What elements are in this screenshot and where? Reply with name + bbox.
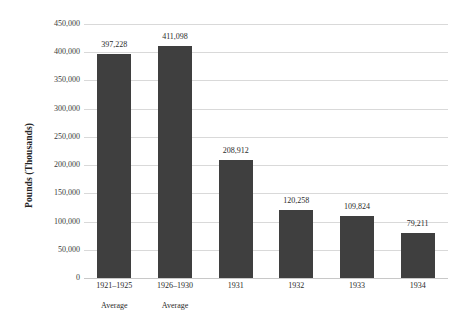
bar[interactable] <box>219 160 253 278</box>
gridline <box>84 109 448 110</box>
bar[interactable] <box>279 210 313 278</box>
bar-group[interactable]: 411,098 <box>158 24 192 278</box>
bar[interactable] <box>340 216 374 278</box>
gridline <box>84 193 448 194</box>
bar[interactable] <box>401 233 435 278</box>
gridline <box>84 250 448 251</box>
gridline <box>84 165 448 166</box>
y-axis-tick-label: 200,000 <box>18 161 80 169</box>
gridline <box>84 24 448 25</box>
bar-value-label: 208,912 <box>197 147 275 155</box>
y-axis-tick-label: 100,000 <box>18 218 80 226</box>
x-axis-tick-label-line2: Average <box>135 302 215 310</box>
axis-baseline <box>84 278 448 279</box>
y-axis-tick-label: 250,000 <box>18 133 80 141</box>
bar-value-label: 79,211 <box>379 220 457 228</box>
bar-group[interactable]: 120,258 <box>279 24 313 278</box>
y-axis-tick-label: 400,000 <box>18 48 80 56</box>
gridline <box>84 52 448 53</box>
y-axis-tick-label: 0 <box>18 274 80 282</box>
bar[interactable] <box>97 54 131 278</box>
y-axis-tick-label: 150,000 <box>18 189 80 197</box>
bar-value-label: 109,824 <box>318 203 396 211</box>
bar-group[interactable]: 109,824 <box>340 24 374 278</box>
bar[interactable] <box>158 46 192 278</box>
bar-value-label: 397,228 <box>75 41 153 49</box>
bar-group[interactable]: 397,228 <box>97 24 131 278</box>
y-axis-tick-label: 350,000 <box>18 76 80 84</box>
bar-chart: Pounds (Thousands) 450,000400,000350,000… <box>0 0 469 331</box>
gridline <box>84 137 448 138</box>
x-axis-tick-labels: 1921–1925Average1926–1930Average19311932… <box>84 282 448 330</box>
plot-area: 397,228411,098208,912120,258109,82479,21… <box>84 24 448 278</box>
y-axis-tick-label: 300,000 <box>18 105 80 113</box>
x-axis-tick-label-line1: 1934 <box>378 282 458 290</box>
y-axis-tick-label: 450,000 <box>18 20 80 28</box>
y-axis-tick-label: 50,000 <box>18 246 80 254</box>
bar-group[interactable]: 208,912 <box>219 24 253 278</box>
gridline <box>84 80 448 81</box>
x-axis-tick-label: 1934 <box>378 282 458 290</box>
bar-group[interactable]: 79,211 <box>401 24 435 278</box>
bar-value-label: 411,098 <box>136 33 214 41</box>
